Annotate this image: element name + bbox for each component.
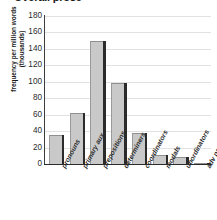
y-tick-label: 120 [28,61,42,69]
y-tick-label: 160 [28,28,42,36]
y-tick-label: 60 [33,111,42,119]
y-axis-ticks: 180160140120100806040200 [20,16,42,164]
bar-pronouns [49,135,62,164]
y-tick-label: 20 [33,144,42,152]
y-tick-label: 80 [33,94,42,102]
y-tick-label: 180 [28,12,42,20]
bar-shadow [103,41,106,164]
bar-chart: Overall prose frequency per million word… [0,0,217,220]
y-tick-label: 100 [28,78,42,86]
x-axis-labels: pronounsprimary auxprepositionsdetermine… [45,166,211,220]
y-tick-label: 0 [37,160,42,168]
bar-shadow [124,83,127,164]
y-tick-label: 40 [33,127,42,135]
y-tick-label: 140 [28,45,42,53]
bar-series [45,16,211,164]
